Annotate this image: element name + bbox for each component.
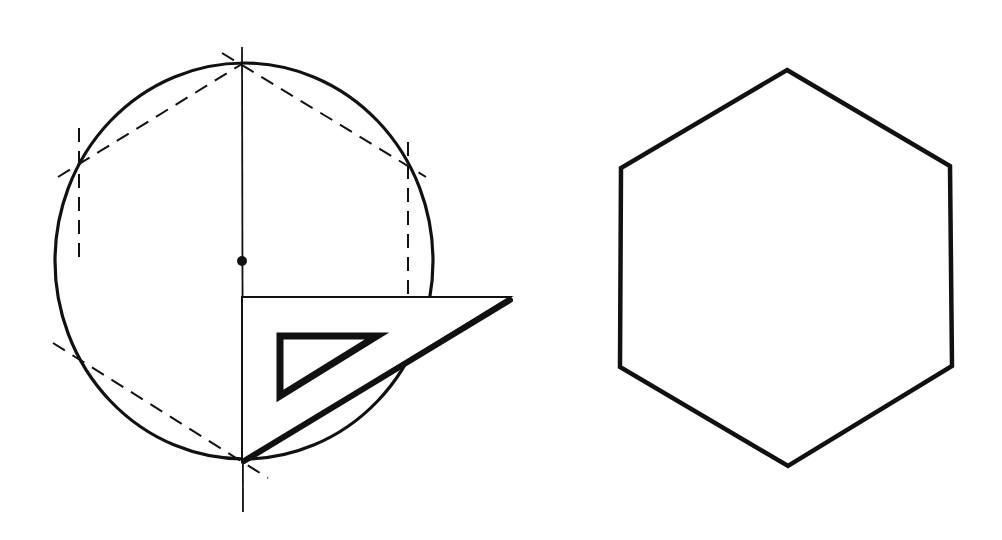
set-square bbox=[242, 297, 510, 462]
diagram-canvas bbox=[0, 0, 1002, 540]
dashed-hexagon-sides bbox=[53, 53, 426, 478]
dashed-construction-line bbox=[58, 64, 242, 177]
circle-center-point bbox=[237, 256, 247, 266]
dashed-construction-line bbox=[222, 53, 426, 177]
regular-hexagon bbox=[620, 70, 952, 466]
hexagon-construction bbox=[53, 47, 510, 512]
dashed-construction-line bbox=[53, 343, 268, 478]
finished-hexagon bbox=[620, 70, 952, 466]
